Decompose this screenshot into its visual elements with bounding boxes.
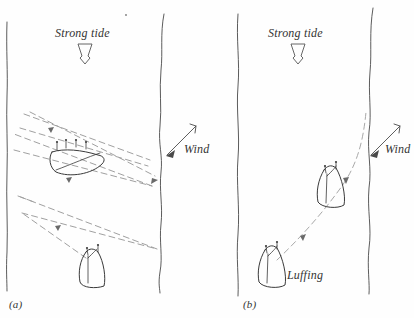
panel-b-wind-label: Wind <box>385 142 410 157</box>
panel-b-right-bank <box>368 8 373 294</box>
panel-b-strong-tide-label: Strong tide <box>268 26 323 41</box>
panel-a-tacking-track <box>14 112 157 258</box>
panel-b-caption: (b) <box>243 298 256 310</box>
panel-a-heeled-boat <box>50 139 104 175</box>
panel-b-direct-track <box>277 112 366 260</box>
panel-a-left-bank <box>7 22 8 291</box>
panel-b-tide-arrow <box>291 44 305 64</box>
sailing-diagram-canvas: .bank { fill:none; stroke:#4a4a4a; strok… <box>0 0 414 318</box>
panel-a-caption: (a) <box>9 298 22 310</box>
panel-a-upright-boat <box>79 244 105 288</box>
stray-ink-dot <box>125 14 127 16</box>
panel-b-lower-boat <box>258 241 285 288</box>
panel-b-luffing-label: Luffing <box>287 268 323 283</box>
figure-container: .bank { fill:none; stroke:#4a4a4a; strok… <box>0 0 414 318</box>
panel-a-strong-tide-label: Strong tide <box>55 26 110 41</box>
panel-a-wind-label: Wind <box>184 142 209 157</box>
panel-b-left-bank <box>237 14 238 296</box>
panel-a-tide-arrow <box>78 44 92 64</box>
panel-a-right-bank <box>159 14 164 293</box>
